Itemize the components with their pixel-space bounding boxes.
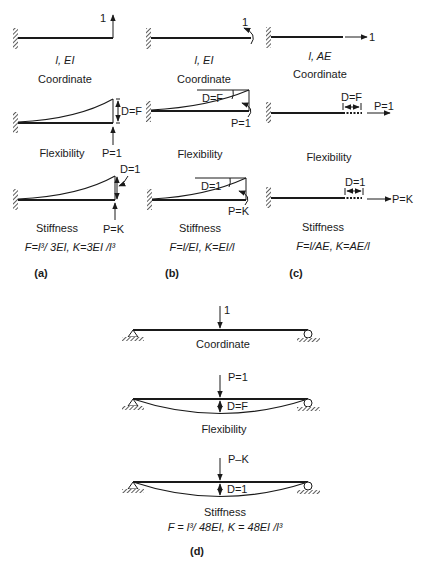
ground-hatch <box>122 337 144 341</box>
pointer-arrow-icon <box>119 176 128 186</box>
fixed-support-icon <box>13 112 18 133</box>
roller-support-icon <box>304 482 312 490</box>
panel-c: 1 l, AE Coordinate D=F P=1 Flexibility D… <box>266 27 414 279</box>
bar-properties-label: l, AE <box>309 50 332 62</box>
flexibility-title: Flexibility <box>306 151 352 163</box>
fixed-support-icon <box>13 28 18 49</box>
panel-label: (c) <box>289 267 303 279</box>
displacement-label: D=F <box>341 91 362 103</box>
coordinate-load-label: 1 <box>242 16 248 28</box>
panel-d-flexibility: P=1 D=F Flexibility <box>122 371 320 435</box>
roller-support-icon <box>304 399 312 407</box>
panel-c-coordinate: 1 l, AE Coordinate <box>266 27 375 80</box>
fixed-support-icon <box>146 28 151 49</box>
fixed-support-icon <box>147 189 152 210</box>
flexibility-title: Flexibility <box>201 423 247 435</box>
formula: F=l/AE, K=AE/l <box>296 240 370 252</box>
load-label: P–K <box>228 453 249 465</box>
panel-a-flexibility: D=F P=1 Flexibility <box>13 99 142 159</box>
beam-properties-label: l, EI <box>195 54 214 66</box>
coordinate-title: Coordinate <box>177 73 231 85</box>
structural-diagram: 1 l, EI Coordinate D=F P=1 Flexibility <box>0 0 428 574</box>
panel-a: 1 l, EI Coordinate D=F P=1 Flexibility <box>13 12 142 279</box>
displacement-label: D=F <box>227 400 248 412</box>
ground-hatch <box>122 489 144 493</box>
rotation-label: D=F <box>202 92 223 104</box>
load-label: P=K <box>103 223 125 235</box>
moment-arrow-icon <box>239 191 248 205</box>
ground-hatch <box>297 490 320 494</box>
load-label: P=1 <box>231 117 251 129</box>
stiffness-title: Stiffness <box>179 222 221 234</box>
stiffness-title: Stiffness <box>36 222 78 234</box>
displacement-label: D=1 <box>227 483 248 495</box>
panel-b: 1 l, EI Coordinate D=F P=1 Flexibility D… <box>146 16 253 279</box>
panel-b-flexibility: D=F P=1 Flexibility <box>146 90 251 160</box>
displacement-label: D=1 <box>345 176 366 188</box>
panel-label: (a) <box>34 267 48 279</box>
fixed-support-icon <box>13 189 18 210</box>
fixed-support-icon <box>266 27 271 48</box>
coordinate-load-label: 1 <box>100 12 106 24</box>
ground-hatch <box>297 338 320 342</box>
deflected-shape <box>152 178 246 199</box>
coordinate-title: Coordinate <box>38 73 92 85</box>
panel-a-coordinate: 1 l, EI Coordinate <box>13 12 113 85</box>
formula: F=l/EI, K=EI/l <box>170 241 235 253</box>
panel-d-coordinate: 1 Coordinate <box>122 304 320 350</box>
deflected-shape <box>151 90 249 110</box>
ground-hatch <box>297 407 320 411</box>
flexibility-title: Flexibility <box>39 147 85 159</box>
coordinate-title: Coordinate <box>196 338 250 350</box>
fixed-support-icon <box>266 102 271 123</box>
load-label: P=1 <box>102 147 122 159</box>
panel-a-stiffness: D=1 P=K Stiffness F=l³/ 3EI, K=3EI /l³ <box>13 163 141 253</box>
moment-arrow-icon <box>244 28 253 44</box>
deflected-shape <box>18 99 113 122</box>
formula: F=l³/ 3EI, K=3EI /l³ <box>25 241 116 253</box>
angle-arc <box>232 90 233 99</box>
panel-label: (b) <box>165 267 179 279</box>
angle-arc <box>229 178 230 187</box>
coordinate-load-label: 1 <box>224 304 230 316</box>
rotation-label: D=1 <box>201 180 222 192</box>
load-label: P=1 <box>374 100 394 112</box>
load-label: P=K <box>228 205 250 217</box>
beam-properties-label: l, EI <box>56 54 75 66</box>
stiffness-title: Stiffness <box>204 506 246 518</box>
displacement-label: D=1 <box>120 163 141 175</box>
fixed-support-icon <box>146 101 151 122</box>
panel-d-stiffness: P–K D=1 Stiffness F = l³/ 48EI, K = 48EI… <box>122 453 320 533</box>
load-label: P=K <box>392 193 414 205</box>
deflected-shape <box>18 176 115 199</box>
coordinate-title: Coordinate <box>293 68 347 80</box>
stiffness-title: Stiffness <box>302 221 344 233</box>
panel-label: (d) <box>190 545 204 557</box>
coordinate-load-label: 1 <box>369 31 375 43</box>
flexibility-title: Flexibility <box>177 148 223 160</box>
panel-c-flexibility: D=F P=1 Flexibility <box>266 91 394 163</box>
panel-b-coordinate: 1 l, EI Coordinate <box>146 16 253 85</box>
load-label: P=1 <box>228 371 248 383</box>
panel-c-stiffness: D=1 P=K Stiffness F=l/AE, K=AE/l <box>266 176 414 252</box>
fixed-support-icon <box>266 187 271 208</box>
formula: F = l³/ 48EI, K = 48EI /l³ <box>168 521 283 533</box>
displacement-label: D=F <box>121 105 142 117</box>
ground-hatch <box>122 406 144 410</box>
panel-d: 1 Coordinate P=1 D=F Flexibility P– <box>122 304 320 557</box>
roller-support-icon <box>304 330 312 338</box>
panel-b-stiffness: D=1 P=K Stiffness F=l/EI, K=EI/l <box>147 178 250 253</box>
